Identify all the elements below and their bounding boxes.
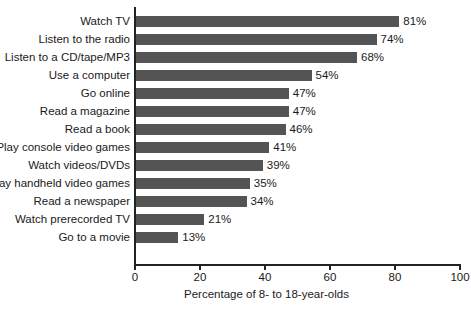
x-tick-mark (264, 265, 265, 270)
x-tick-label: 20 (194, 271, 207, 284)
bar (136, 106, 289, 117)
plot-area: 020406080100 Watch TV81%Listen to the ra… (0, 0, 471, 309)
bar-row: Watch videos/DVDs39% (0, 156, 471, 174)
category-label: Read a book (65, 120, 130, 138)
bar-row: Read a book46% (0, 120, 471, 138)
x-axis-title: Percentage of 8- to 18-year-olds (0, 288, 471, 300)
category-label: Play console video games (0, 138, 130, 156)
bar-row: Use a computer54% (0, 66, 471, 84)
bar (136, 16, 399, 27)
bar-row: Listen to a CD/tape/MP368% (0, 48, 471, 66)
category-label: Play handheld video games (0, 174, 130, 192)
x-tick-label: 0 (132, 271, 138, 284)
x-tick-mark (329, 265, 330, 270)
category-label: Watch prerecorded TV (15, 210, 130, 228)
category-label: Go online (81, 84, 130, 102)
bar (136, 214, 204, 225)
x-tick-label: 60 (324, 271, 337, 284)
bar (136, 34, 377, 45)
bar-value-label: 13% (182, 228, 205, 246)
category-label: Use a computer (49, 66, 130, 84)
bar (136, 70, 312, 81)
bar-value-label: 34% (251, 192, 274, 210)
category-label: Listen to the radio (39, 30, 130, 48)
bar-row: Play handheld video games35% (0, 174, 471, 192)
x-axis-title-text: Percentage of 8- to 18-year-olds (184, 288, 349, 300)
bar-value-label: 54% (316, 66, 339, 84)
bar (136, 160, 263, 171)
x-tick-mark (394, 265, 395, 270)
bar-value-label: 68% (361, 48, 384, 66)
bar-row: Go online47% (0, 84, 471, 102)
bar (136, 232, 178, 243)
category-label: Read a magazine (40, 102, 130, 120)
bar-value-label: 74% (381, 30, 404, 48)
bar-value-label: 81% (403, 12, 426, 30)
bar-row: Play console video games41% (0, 138, 471, 156)
category-label: Listen to a CD/tape/MP3 (5, 48, 130, 66)
bar (136, 88, 289, 99)
bar (136, 52, 357, 63)
bar-row: Go to a movie13% (0, 228, 471, 246)
x-tick-mark (459, 265, 460, 270)
category-label: Watch TV (80, 12, 130, 30)
x-tick-label: 40 (259, 271, 272, 284)
bar (136, 178, 250, 189)
bar (136, 142, 269, 153)
x-tick-label: 80 (389, 271, 402, 284)
bar-value-label: 41% (273, 138, 296, 156)
x-axis-line (134, 264, 461, 266)
x-tick-mark (199, 265, 200, 270)
bar-value-label: 35% (254, 174, 277, 192)
x-tick-label: 100 (450, 271, 469, 284)
bar-row: Read a newspaper34% (0, 192, 471, 210)
bar-row: Watch TV81% (0, 12, 471, 30)
bar (136, 196, 247, 207)
x-tick-mark (134, 265, 135, 270)
bar (136, 124, 286, 135)
bar-row: Listen to the radio74% (0, 30, 471, 48)
category-label: Watch videos/DVDs (28, 156, 130, 174)
bar-chart: 020406080100 Watch TV81%Listen to the ra… (0, 0, 471, 309)
bar-value-label: 21% (208, 210, 231, 228)
category-label: Read a newspaper (33, 192, 130, 210)
bar-row: Read a magazine47% (0, 102, 471, 120)
bar-value-label: 46% (290, 120, 313, 138)
category-label: Go to a movie (58, 228, 130, 246)
bar-value-label: 47% (293, 102, 316, 120)
bar-value-label: 39% (267, 156, 290, 174)
bar-row: Watch prerecorded TV21% (0, 210, 471, 228)
bar-value-label: 47% (293, 84, 316, 102)
